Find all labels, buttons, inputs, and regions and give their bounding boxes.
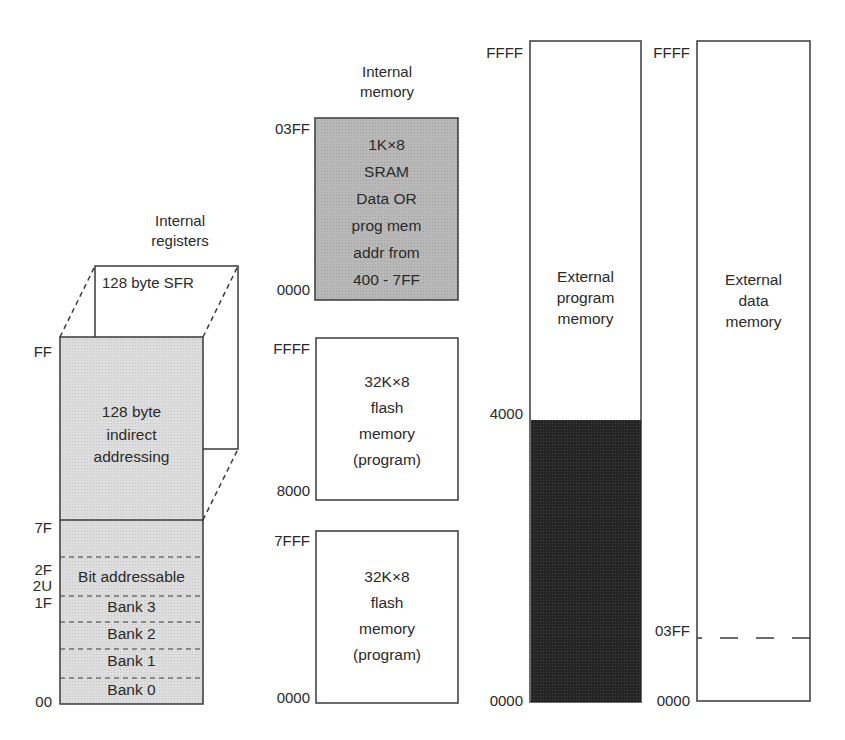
flash-lower-bottom-addr: 0000 [262,689,310,707]
flash-upper-bottom-addr: 8000 [262,482,310,500]
label-line: program [530,287,641,308]
addr-ff: FF [20,343,52,361]
internal-memory-title: Internal memory [327,62,447,102]
label-line: addressing [60,446,203,469]
label-line: 128 byte [60,401,203,424]
flash-lower-top-addr: 7FFF [262,532,310,550]
label-line: Data OR [315,185,458,212]
ext-data-top-addr: FFFF [643,44,690,62]
label-line: data [697,290,810,311]
label-line: (program) [316,642,458,668]
ext-program-top-addr: FFFF [475,44,523,62]
band-bit-addressable: Bit addressable [60,568,203,586]
title-line: memory [327,82,447,102]
label-line: 32K×8 [316,369,458,395]
label-line: 32K×8 [316,564,458,590]
label-line: memory [530,308,641,329]
external-program-block [530,41,641,702]
ext-data-mid-addr: 03FF [643,622,690,640]
label-line: SRAM [315,158,458,185]
label-line: addr from [315,239,458,266]
addr-7f: 7F [20,519,52,537]
register-front-block [60,337,203,704]
sram-top-addr: 03FF [262,120,310,138]
band-bank-0: Bank 0 [60,681,203,699]
ext-program-bottom-addr: 0000 [475,692,523,710]
band-bank-3: Bank 3 [60,598,203,616]
label-line: flash [316,590,458,616]
label-line: 1K×8 [315,131,458,158]
label-line: memory [697,311,810,332]
external-program-label: External program memory [530,266,641,329]
label-line: flash [316,395,458,421]
label-line: memory [316,616,458,642]
sram-label: 1K×8 SRAM Data OR prog mem addr from 400… [315,131,458,293]
band-bank-1: Bank 1 [60,652,203,670]
title-line: Internal [120,211,240,231]
label-line: indirect [60,424,203,447]
sfr-label: 128 byte SFR [102,274,194,292]
label-line: External [530,266,641,287]
external-data-label: External data memory [697,269,810,332]
addr-2u: 2U [20,577,52,595]
internal-registers-title: Internal registers [120,211,240,251]
addr-1f: 1F [20,594,52,612]
sram-bottom-addr: 0000 [262,281,310,299]
external-data-block [697,41,810,701]
band-bank-2: Bank 2 [60,625,203,643]
ext-program-mid-addr: 4000 [475,405,523,423]
addr-00: 00 [20,693,52,711]
label-line: memory [316,421,458,447]
label-line: 400 - 7FF [315,266,458,293]
ext-data-bottom-addr: 0000 [643,692,690,710]
flash-upper-top-addr: FFFF [262,340,310,358]
title-line: registers [120,231,240,251]
flash-upper-label: 32K×8 flash memory (program) [316,369,458,473]
label-line: External [697,269,810,290]
flash-lower-label: 32K×8 flash memory (program) [316,564,458,668]
title-line: Internal [327,62,447,82]
label-line: (program) [316,447,458,473]
indirect-addressing-label: 128 byte indirect addressing [60,401,203,469]
label-line: prog mem [315,212,458,239]
